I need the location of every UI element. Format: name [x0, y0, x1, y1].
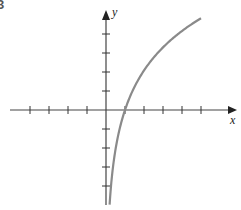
log-curve — [110, 18, 201, 204]
graph: x y — [0, 0, 241, 210]
y-axis-label: y — [111, 5, 118, 19]
axes — [10, 10, 237, 205]
y-axis-arrow-icon — [102, 10, 110, 20]
x-axis-label: x — [229, 113, 236, 127]
